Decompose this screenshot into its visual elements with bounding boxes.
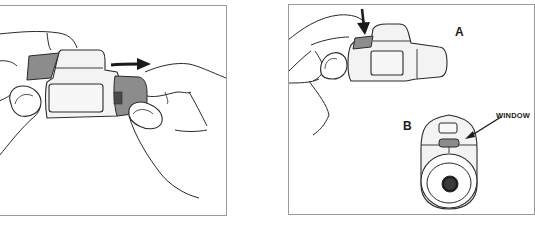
device-window [49,84,103,112]
left-thumb [10,86,41,116]
right-thumb [129,102,162,129]
illustration-panel-pull-apart [0,5,227,216]
pull-arrow-shaft [111,64,139,65]
window-check-illustration [289,5,534,214]
label-b: B [403,119,412,133]
arrow-down-icon [357,22,370,35]
upper-finger-outline [0,31,77,48]
device-button [353,36,373,49]
device-a-window [371,51,403,75]
hand-outline [289,15,365,41]
label-a: A [455,25,464,39]
illustration-panel-window-check: A B WINDOW [288,4,535,215]
pull-apart-illustration [0,6,226,215]
right-hand-outline [145,63,226,78]
device-b-slot [439,123,457,133]
label-window: WINDOW [496,111,530,120]
cap-latch [114,92,122,104]
arrow-right-icon [137,58,151,70]
dose-window [439,139,459,147]
thumb [321,53,347,79]
